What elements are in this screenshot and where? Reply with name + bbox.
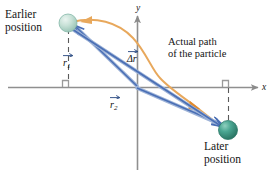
- right-angle-marker-earlier: [63, 81, 69, 88]
- vector-label-r1: r1: [63, 57, 70, 70]
- diagram-canvas: [0, 0, 275, 174]
- vector-arrow-icon: [110, 95, 115, 99]
- vector-label-r2: r2: [110, 99, 117, 112]
- vector-arrow-icon: [128, 49, 139, 53]
- earlier-position-marker: [59, 14, 77, 32]
- vector-label-r1-subscript: 1: [67, 62, 71, 70]
- vector-label-r2-symbol: r: [110, 99, 114, 110]
- vector-arrow-icon: [63, 53, 68, 57]
- physics-vector-diagram: Earlier position Later position Actual p…: [0, 0, 275, 174]
- later-position-marker: [219, 121, 238, 140]
- right-angle-marker-later: [223, 81, 229, 88]
- x-axis-label: x: [262, 82, 266, 92]
- vector-delta-r: [72, 29, 221, 126]
- vector-label-delta-r: Δr: [127, 53, 137, 64]
- vector-label-r2-subscript: 2: [114, 104, 118, 112]
- y-axis-label: y: [136, 3, 140, 13]
- vector-label-delta-r-symbol: Δr: [127, 53, 137, 64]
- vector-label-r1-symbol: r: [63, 57, 67, 68]
